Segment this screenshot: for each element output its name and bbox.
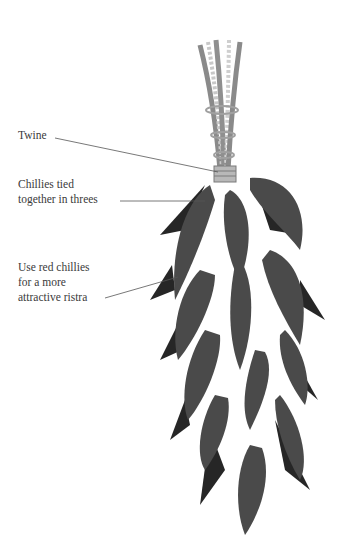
chillies <box>174 178 308 535</box>
twine-icon <box>200 40 240 182</box>
chilli-icon <box>250 178 303 250</box>
label-twine: Twine <box>18 128 47 143</box>
label-red-chillies: Use red chillies for a more attractive r… <box>18 260 90 305</box>
twine-leader-line <box>55 138 218 172</box>
chilli-icon <box>262 250 304 345</box>
label-chillies-tied: Chillies tied together in threes <box>18 177 98 207</box>
chilli-icon <box>238 445 266 535</box>
chilli-icon <box>280 330 308 405</box>
ristra-diagram: Twine Chillies tied together in threes U… <box>0 0 345 555</box>
chilli-icon <box>230 260 251 370</box>
chilli-icon <box>245 350 269 430</box>
